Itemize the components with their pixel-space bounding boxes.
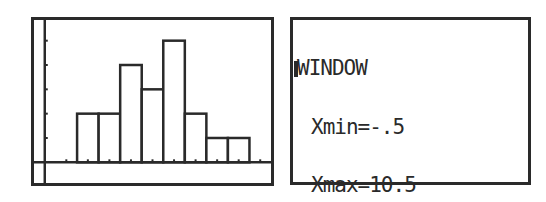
histogram-bar: [185, 114, 207, 163]
window-settings-text: WINDOW Xmin=-.5 Xmax=10.5 Xscl=1 Ymin=-.…: [297, 20, 416, 202]
histogram-plot: [34, 20, 271, 183]
window-title: WINDOW: [297, 56, 367, 80]
setting-xmin[interactable]: Xmin=-.5: [297, 118, 416, 138]
histogram-bar: [142, 89, 164, 162]
histogram-bar: [99, 114, 121, 163]
setting-xmax[interactable]: Xmax=10.5: [297, 176, 416, 196]
cursor-block-icon: [294, 61, 298, 77]
histogram-bar: [163, 41, 185, 163]
histogram-bar: [120, 65, 142, 162]
window-title-row: WINDOW: [297, 59, 416, 79]
graph-screen: [31, 17, 274, 186]
window-settings-screen: WINDOW Xmin=-.5 Xmax=10.5 Xscl=1 Ymin=-.…: [290, 17, 531, 185]
histogram-bar: [206, 138, 228, 162]
histogram-bar: [228, 138, 250, 162]
histogram-bar: [77, 114, 99, 163]
